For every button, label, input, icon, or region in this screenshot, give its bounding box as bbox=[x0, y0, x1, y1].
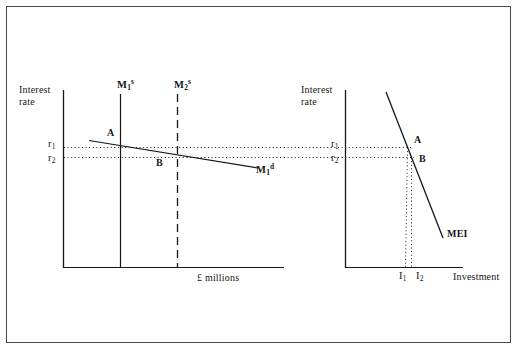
right-point-b: B bbox=[419, 153, 426, 164]
left-point-b: B bbox=[156, 157, 163, 168]
dropline-i1 bbox=[406, 148, 408, 268]
curve-label-mei: MEI bbox=[447, 228, 468, 239]
curve-money-demand-1 bbox=[89, 141, 258, 169]
left-x-axis-title: £ millions bbox=[197, 272, 239, 284]
investment-label-i2: I2 bbox=[416, 270, 424, 281]
figure-root: Interest rate £ millions r1 r2 M1s M2s M… bbox=[0, 0, 519, 351]
right-y-axis-title: Interest rate bbox=[301, 84, 333, 107]
curve-mei bbox=[386, 92, 443, 238]
left-point-a: A bbox=[107, 127, 114, 138]
diagram-canvas bbox=[0, 0, 519, 351]
right-x-axis-title: Investment bbox=[453, 271, 499, 283]
left-y-axis-title: Interest rate bbox=[19, 84, 51, 107]
curve-label-money-supply-2: M2s bbox=[174, 79, 191, 90]
right-point-a: A bbox=[414, 134, 421, 145]
left-rate-label-r2: r2 bbox=[48, 152, 56, 163]
investment-label-i1: I1 bbox=[399, 270, 407, 281]
left-rate-label-r1: r1 bbox=[48, 138, 56, 149]
curve-label-money-demand-1: M1d bbox=[256, 164, 274, 175]
right-rate-label-r2: r2 bbox=[331, 152, 339, 163]
right-rate-label-r1: r1 bbox=[331, 138, 339, 149]
curve-label-money-supply-1: M1s bbox=[117, 79, 134, 90]
